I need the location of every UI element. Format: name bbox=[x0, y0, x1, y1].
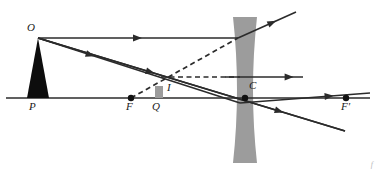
optics-diagram-svg bbox=[0, 0, 376, 171]
ray-parallel-incident-arrowhead bbox=[133, 35, 142, 42]
point-label-i: I bbox=[167, 82, 171, 93]
point-label-q: Q bbox=[152, 101, 160, 112]
ray-through-centre-arrow2-arrowhead bbox=[274, 107, 284, 114]
point-label-c: C bbox=[249, 80, 256, 91]
ray-toward-far-focus-incident-arrowhead bbox=[85, 50, 95, 56]
point-dot-c bbox=[242, 95, 248, 101]
ray-parallel-refracted-arrowhead bbox=[267, 21, 277, 28]
ray-through-centre-arrow2 bbox=[38, 38, 345, 131]
corner-mark: f bbox=[371, 160, 373, 169]
ray-diagram-canvas: OPFQICF' f bbox=[0, 0, 376, 171]
image-arrow bbox=[155, 86, 163, 98]
point-label-fp: F' bbox=[341, 101, 350, 112]
object-arrow bbox=[27, 38, 49, 98]
point-label-o: O bbox=[27, 22, 35, 33]
ray-image-horizontal-arrowhead bbox=[285, 74, 294, 81]
point-label-f: F bbox=[126, 101, 133, 112]
ray-layer bbox=[38, 12, 370, 131]
point-label-p: P bbox=[29, 101, 36, 112]
